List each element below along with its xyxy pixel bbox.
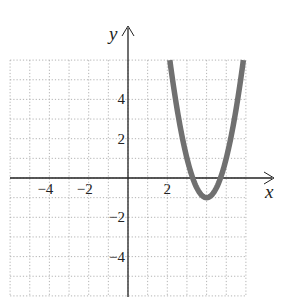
x-tick-label: −2 bbox=[77, 181, 93, 197]
x-tick-label: −4 bbox=[37, 181, 53, 197]
y-axis-label: y bbox=[107, 23, 118, 44]
parabola-curve bbox=[170, 60, 244, 197]
y-tick-label: 4 bbox=[118, 91, 126, 107]
y-tick-label: −4 bbox=[109, 249, 125, 265]
y-tick-label: −2 bbox=[109, 209, 125, 225]
y-tick-label: 2 bbox=[118, 131, 126, 147]
x-axis-label: x bbox=[264, 181, 274, 202]
parabola-chart: y x −4−2242−2−4 bbox=[0, 0, 288, 304]
x-tick-label: 2 bbox=[164, 181, 172, 197]
